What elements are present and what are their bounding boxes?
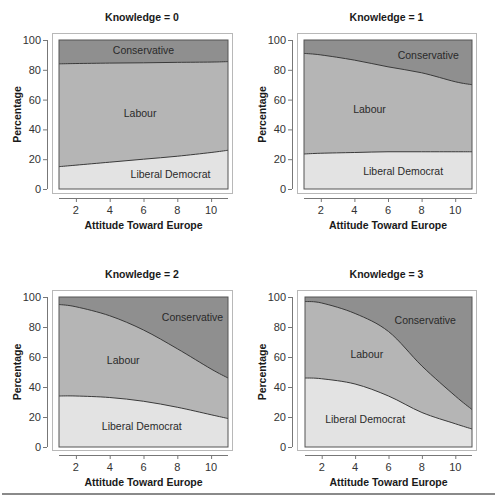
x-tick-label: 10 — [205, 461, 217, 473]
region-label: Labour — [107, 354, 140, 366]
region-label: Liberal Democrat — [102, 420, 182, 432]
x-tick-label: 4 — [107, 461, 113, 473]
x-axis-label: Attitude Toward Europe — [84, 219, 202, 231]
x-tick-label: 2 — [318, 204, 324, 216]
x-tick-label: 8 — [174, 204, 180, 216]
panel-title: Knowledge = 1 — [350, 11, 424, 23]
y-tick-label: 20 — [29, 153, 41, 165]
x-tick-label: 6 — [140, 461, 146, 473]
region-label: Liberal Democrat — [363, 165, 443, 177]
x-tick-label: 8 — [419, 204, 425, 216]
y-tick-label: 20 — [29, 411, 41, 423]
region-label: Labour — [353, 103, 386, 115]
region-label: Conservative — [395, 314, 456, 326]
y-tick-label: 60 — [274, 351, 286, 363]
bottom-rule — [2, 493, 495, 495]
y-tick-label: 100 — [23, 34, 41, 46]
panel-knowledge-0: Knowledge = 0ConservativeLabourLiberal D… — [11, 11, 233, 231]
y-tick-label: 80 — [29, 321, 41, 333]
region-label: Conservative — [398, 49, 459, 61]
y-tick-label: 40 — [274, 123, 286, 135]
x-axis-label: Attitude Toward Europe — [329, 476, 447, 488]
y-tick-label: 60 — [29, 351, 41, 363]
y-axis-label: Percentage — [11, 86, 23, 143]
y-tick-label: 0 — [35, 183, 41, 195]
x-tick-label: 2 — [73, 204, 79, 216]
panel-knowledge-2: Knowledge = 2ConservativeLabourLiberal D… — [11, 268, 233, 488]
panel-knowledge-3: Knowledge = 3ConservativeLabourLiberal D… — [256, 268, 477, 488]
figure: Knowledge = 0ConservativeLabourLiberal D… — [0, 0, 495, 502]
y-tick-label: 0 — [35, 441, 41, 453]
x-tick-label: 4 — [352, 461, 358, 473]
y-tick-label: 0 — [280, 183, 286, 195]
y-tick-label: 20 — [274, 153, 286, 165]
y-tick-label: 80 — [29, 64, 41, 76]
x-tick-label: 10 — [205, 204, 217, 216]
region-label: Conservative — [162, 311, 223, 323]
y-tick-label: 80 — [274, 64, 286, 76]
x-tick-label: 6 — [140, 204, 146, 216]
y-axis-label: Percentage — [256, 344, 268, 401]
y-tick-label: 20 — [274, 411, 286, 423]
x-tick-label: 4 — [107, 204, 113, 216]
x-tick-label: 6 — [385, 204, 391, 216]
y-tick-label: 40 — [29, 123, 41, 135]
y-tick-label: 60 — [274, 94, 286, 106]
x-tick-label: 2 — [73, 461, 79, 473]
y-axis-label: Percentage — [256, 86, 268, 143]
x-tick-label: 10 — [449, 461, 461, 473]
region-label: Labour — [350, 348, 383, 360]
chart-svg: Knowledge = 0ConservativeLabourLiberal D… — [0, 0, 495, 502]
panel-title: Knowledge = 2 — [105, 268, 179, 280]
panel-title: Knowledge = 0 — [105, 11, 179, 23]
y-axis-label: Percentage — [11, 344, 23, 401]
x-tick-label: 10 — [449, 204, 461, 216]
y-tick-label: 100 — [268, 34, 286, 46]
x-tick-label: 2 — [319, 461, 325, 473]
panel-title: Knowledge = 3 — [350, 268, 424, 280]
y-tick-label: 60 — [29, 94, 41, 106]
y-tick-label: 40 — [274, 381, 286, 393]
region-label: Labour — [124, 107, 157, 119]
y-tick-label: 40 — [29, 381, 41, 393]
region-label: Conservative — [113, 44, 174, 56]
y-tick-label: 100 — [268, 291, 286, 303]
region-label: Liberal Democrat — [325, 413, 405, 425]
region-label: Liberal Democrat — [131, 168, 211, 180]
x-axis-label: Attitude Toward Europe — [329, 219, 447, 231]
y-tick-label: 100 — [23, 291, 41, 303]
x-tick-label: 8 — [419, 461, 425, 473]
x-axis-label: Attitude Toward Europe — [84, 476, 202, 488]
x-tick-label: 4 — [351, 204, 357, 216]
panel-knowledge-1: Knowledge = 1ConservativeLabourLiberal D… — [256, 11, 477, 231]
y-tick-label: 0 — [280, 441, 286, 453]
y-tick-label: 80 — [274, 321, 286, 333]
x-tick-label: 8 — [174, 461, 180, 473]
x-tick-label: 6 — [385, 461, 391, 473]
